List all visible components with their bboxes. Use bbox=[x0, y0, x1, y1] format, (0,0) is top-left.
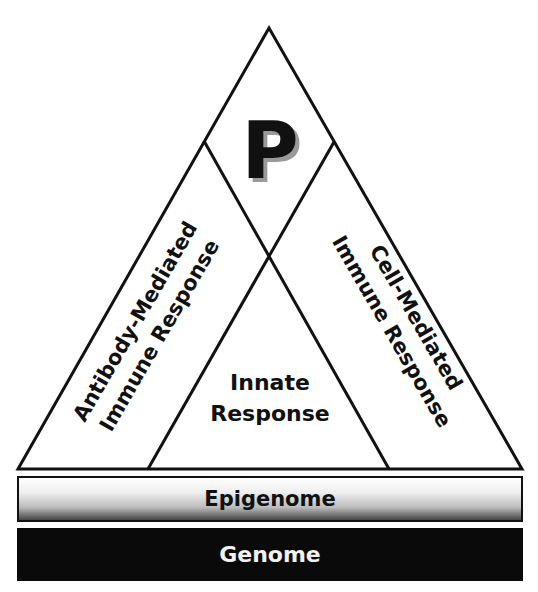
center-region-line2: Response bbox=[210, 401, 330, 426]
center-region-line1: Innate bbox=[230, 370, 310, 395]
genome-layer: Genome bbox=[17, 528, 523, 581]
apex-letter: P bbox=[241, 106, 298, 196]
epigenome-layer: Epigenome bbox=[17, 476, 523, 522]
